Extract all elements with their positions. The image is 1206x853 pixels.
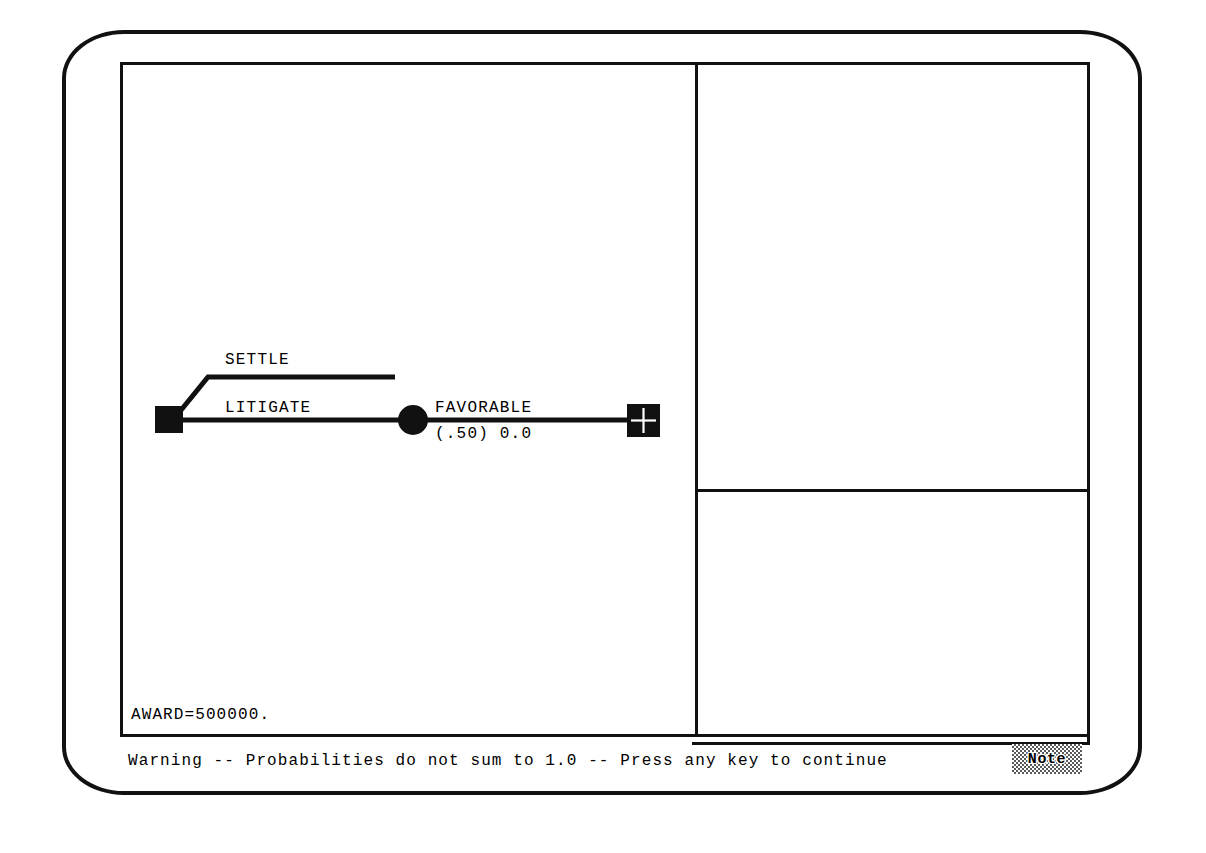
chance-node-circle[interactable] — [398, 405, 428, 435]
settle-branch-label[interactable]: SETTLE — [225, 351, 290, 369]
award-readout: AWARD=500000. — [131, 706, 270, 724]
favorable-probability-payoff[interactable]: (.50) 0.0 — [435, 425, 532, 443]
favorable-branch-label[interactable]: FAVORABLE — [435, 399, 532, 417]
litigate-branch-label[interactable]: LITIGATE — [225, 399, 311, 417]
note-button[interactable]: Note — [1012, 744, 1082, 774]
side-panel-upper[interactable] — [698, 65, 1090, 491]
tree-pane[interactable]: SETTLE LITIGATE FAVORABLE (.50) 0.0 — [123, 65, 695, 737]
decision-tree-graphic[interactable] — [123, 65, 695, 737]
side-panel-lower[interactable] — [698, 492, 1090, 748]
status-bar: Warning -- Probabilities do not sum to 1… — [128, 744, 1140, 778]
warning-message: Warning -- Probabilities do not sum to 1… — [128, 752, 888, 770]
side-panel — [698, 65, 1090, 748]
terminal-screen: SETTLE LITIGATE FAVORABLE (.50) 0.0 AWAR… — [120, 62, 1090, 737]
terminal-node-pinwheel[interactable] — [627, 404, 660, 437]
note-button-label: Note — [1028, 751, 1066, 768]
decision-node-square[interactable] — [155, 406, 183, 433]
